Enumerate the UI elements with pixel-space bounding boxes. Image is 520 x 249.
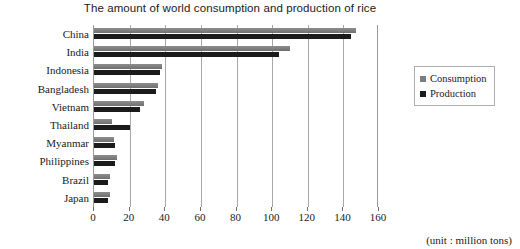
bar-consumption xyxy=(94,137,114,142)
x-tick-label: 140 xyxy=(322,211,362,223)
bar-consumption xyxy=(94,64,162,69)
chart-title: The amount of world consumption and prod… xyxy=(0,2,460,14)
category-label: Japan xyxy=(0,189,89,207)
chart-category-row: Thailand xyxy=(94,116,377,134)
bar-consumption xyxy=(94,174,110,179)
legend-swatch-icon xyxy=(420,76,426,82)
bar-consumption xyxy=(94,192,110,197)
chart-category-row: India xyxy=(94,43,377,61)
category-label: India xyxy=(0,43,89,61)
legend-item: Production xyxy=(420,86,487,101)
legend-label: Production xyxy=(430,88,476,99)
rice-consumption-production-chart: The amount of world consumption and prod… xyxy=(0,0,520,249)
x-tick-label: 40 xyxy=(144,211,184,223)
bar-production xyxy=(94,161,115,166)
category-label: China xyxy=(0,25,89,43)
chart-legend: ConsumptionProduction xyxy=(414,66,495,106)
bar-production xyxy=(94,70,160,75)
plot-area: ChinaIndiaIndonesiaBangladeshVietnamThai… xyxy=(93,25,378,207)
legend-swatch-icon xyxy=(420,91,426,97)
x-tick-label: 120 xyxy=(287,211,327,223)
x-tick-label: 20 xyxy=(109,211,149,223)
category-label: Indonesia xyxy=(0,61,89,79)
bar-production xyxy=(94,143,115,148)
unit-note: (unit : million tons) xyxy=(426,234,512,246)
x-tick-label: 0 xyxy=(73,211,113,223)
bar-production xyxy=(94,198,108,203)
category-label: Bangladesh xyxy=(0,80,89,98)
chart-category-row: Indonesia xyxy=(94,61,377,79)
category-label: Vietnam xyxy=(0,98,89,116)
x-tick-label: 60 xyxy=(180,211,220,223)
legend-label: Consumption xyxy=(430,73,487,84)
chart-category-row: Philippines xyxy=(94,152,377,170)
chart-category-row: China xyxy=(94,25,377,43)
bar-production xyxy=(94,125,130,130)
category-label: Philippines xyxy=(0,152,89,170)
chart-category-row: Vietnam xyxy=(94,98,377,116)
bar-production xyxy=(94,89,156,94)
legend-item: Consumption xyxy=(420,71,487,86)
bar-production xyxy=(94,107,140,112)
category-label: Myanmar xyxy=(0,134,89,152)
bar-consumption xyxy=(94,83,158,88)
category-label: Brazil xyxy=(0,171,89,189)
bar-consumption xyxy=(94,101,144,106)
x-tick-label: 80 xyxy=(216,211,256,223)
bar-consumption xyxy=(94,28,356,33)
x-tick-label: 100 xyxy=(251,211,291,223)
chart-category-row: Brazil xyxy=(94,171,377,189)
bar-consumption xyxy=(94,119,112,124)
bar-consumption xyxy=(94,155,117,160)
x-tick-label: 160 xyxy=(358,211,398,223)
bar-production xyxy=(94,52,279,57)
chart-category-row: Myanmar xyxy=(94,134,377,152)
chart-category-row: Bangladesh xyxy=(94,80,377,98)
chart-category-row: Japan xyxy=(94,189,377,207)
bar-production xyxy=(94,180,108,185)
category-label: Thailand xyxy=(0,116,89,134)
bar-production xyxy=(94,34,351,39)
x-axis: 020406080100120140160 xyxy=(93,207,378,227)
bar-consumption xyxy=(94,46,290,51)
